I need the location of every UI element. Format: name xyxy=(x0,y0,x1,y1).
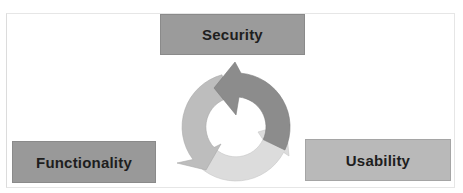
node-usability-label: Usability xyxy=(346,152,410,169)
node-functionality: Functionality xyxy=(12,141,156,183)
node-usability: Usability xyxy=(305,139,451,181)
node-functionality-label: Functionality xyxy=(36,154,132,171)
node-security-label: Security xyxy=(202,26,263,43)
node-security: Security xyxy=(160,14,305,55)
